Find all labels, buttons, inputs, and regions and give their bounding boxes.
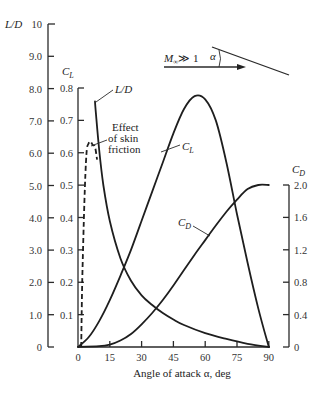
cd-leader (193, 226, 210, 236)
cl-tick-label: 0.4 (60, 213, 74, 224)
ld-tick-label: 0 (37, 342, 42, 353)
arrowhead-icon (237, 64, 246, 70)
inset-alpha-label: α (210, 50, 216, 62)
cl-axis-title: CL (62, 65, 74, 80)
ld-tick-label: 3.0 (29, 245, 42, 256)
aero-coefficients-chart: 01.02.03.04.05.06.07.08.09.010 0.10.20.3… (0, 0, 321, 396)
cd-ticks: 00.40.81.21.62.0 (283, 180, 308, 353)
cd-tick-label: 1.6 (294, 212, 307, 223)
cl-tick-label: 0.5 (60, 180, 73, 191)
c-l-curve (78, 95, 269, 347)
x-axis-label: Angle of attack α, deg (133, 367, 231, 379)
ld-leader (96, 90, 113, 102)
x-tick-label: 60 (200, 352, 211, 363)
ld-tick-label: 4.0 (29, 213, 42, 224)
l-d-effect-of-skin-friction-curve (81, 142, 97, 347)
x-tick-label: 90 (264, 352, 275, 363)
ld-callout: L/D (114, 83, 132, 95)
ld-ticks: 01.02.03.04.05.06.07.08.09.010 (29, 19, 54, 353)
ld-tick-label: 6.0 (29, 148, 42, 159)
flow-inset: M∞≫ 1 α (163, 47, 289, 75)
ld-tick-label: 10 (32, 19, 43, 30)
cd-tick-label: 0.8 (294, 277, 307, 288)
cl-ticks: 0.10.20.30.40.50.60.70.8 (60, 83, 84, 321)
cd-tick-label: 1.2 (294, 245, 307, 256)
ld-tick-label: 9.0 (29, 51, 42, 62)
cl-tick-label: 0.1 (60, 310, 73, 321)
cl-tick-label: 0.2 (60, 277, 73, 288)
friction-label-3: friction (108, 143, 141, 155)
cd-callout: CD (178, 216, 191, 231)
cd-tick-label: 2.0 (294, 180, 307, 191)
ld-tick-label: 2.0 (29, 277, 42, 288)
cl-tick-label: 0.8 (60, 83, 73, 94)
cd-tick-label: 0 (294, 342, 299, 353)
ld-tick-label: 7.0 (29, 116, 42, 127)
ld-tick-label: 5.0 (29, 181, 42, 192)
x-tick-label: 0 (75, 352, 80, 363)
x-ticks: 0153045607590 (75, 341, 274, 363)
x-tick-label: 75 (232, 352, 243, 363)
curves (78, 95, 269, 347)
cd-tick-label: 0.4 (294, 310, 308, 321)
flat-plate (212, 47, 289, 75)
ld-axis-title: L/D (4, 18, 22, 30)
cl-leader (161, 145, 180, 152)
cl-tick-label: 0.7 (60, 115, 73, 126)
cl-callout: CL (182, 140, 194, 155)
alpha-arc (219, 50, 221, 67)
x-tick-label: 30 (136, 352, 147, 363)
inset-mach-label: M∞≫ 1 (163, 52, 198, 66)
ld-tick-label: 1.0 (29, 310, 42, 321)
cl-tick-label: 0.6 (60, 148, 73, 159)
x-tick-label: 15 (105, 352, 116, 363)
x-tick-label: 45 (168, 352, 179, 363)
cl-tick-label: 0.3 (60, 245, 73, 256)
cd-axis-title: CD (292, 163, 305, 178)
ld-tick-label: 8.0 (29, 84, 42, 95)
